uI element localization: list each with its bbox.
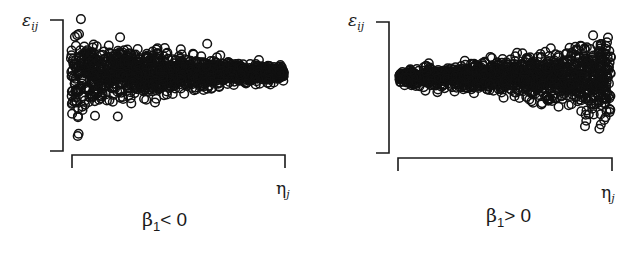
x-axis-bracket xyxy=(398,158,612,171)
scatter-plot-right xyxy=(0,0,637,254)
chart-panel-positive-beta: εij ηj β1> 0 xyxy=(0,0,637,254)
x-axis-label: ηj xyxy=(601,182,615,205)
data-points xyxy=(395,31,615,133)
y-axis-bracket xyxy=(376,22,389,153)
panel-caption: β1> 0 xyxy=(486,204,531,230)
y-axis-label: εij xyxy=(348,10,364,33)
